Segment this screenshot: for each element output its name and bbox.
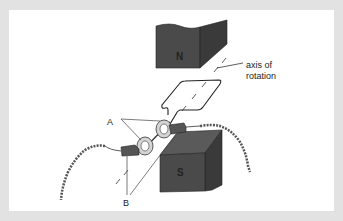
slip-rings-label: A	[107, 117, 113, 127]
south-magnet: S	[160, 130, 222, 192]
axis-label-line2: rotation	[246, 71, 276, 81]
wire-left	[61, 146, 121, 201]
coil-loop	[162, 80, 221, 124]
north-magnet: N	[156, 20, 227, 68]
brushes-label: B	[123, 198, 129, 208]
south-pole-label: S	[177, 167, 184, 178]
diagram-frame: N axis of rotation S	[0, 0, 343, 221]
ac-generator-diagram: N axis of rotation S	[0, 0, 343, 221]
slip-ring-lower	[137, 137, 153, 155]
axis-label-line1: axis of	[246, 60, 273, 70]
north-pole-label: N	[176, 51, 183, 62]
slip-rings-pointers	[121, 119, 160, 140]
brush-lower	[121, 145, 139, 156]
